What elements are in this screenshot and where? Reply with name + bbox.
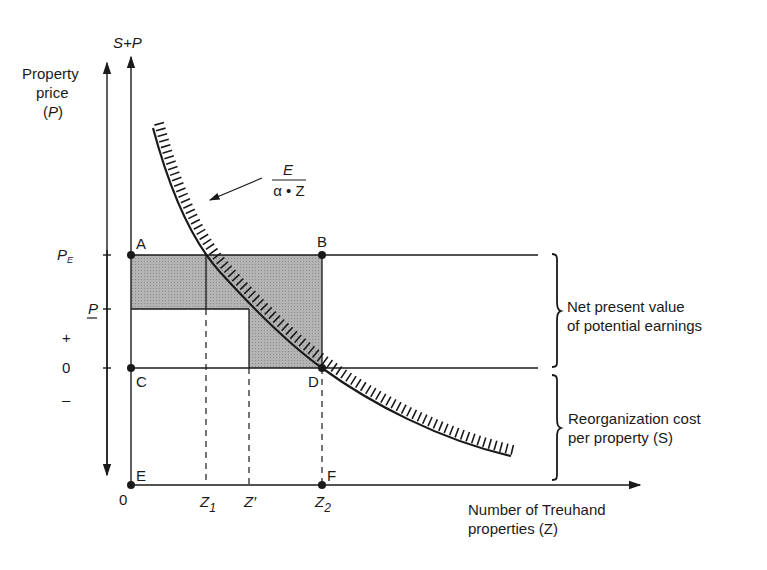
lower-brace <box>552 375 561 480</box>
label-c: C <box>136 373 147 390</box>
x-axis-label-2: properties (Z) <box>468 520 558 537</box>
shaded-area <box>131 255 322 368</box>
s-plus-p-label: S+P <box>113 34 142 51</box>
origin-label: 0 <box>119 491 127 508</box>
lower-brace-label-2: per property (S) <box>568 429 673 446</box>
tick-z2: Z2 <box>314 493 331 515</box>
upper-brace-label-1: Net present value <box>567 298 685 315</box>
point-a <box>127 251 135 259</box>
y-axis-label-line1: Property <box>22 65 79 82</box>
point-c <box>127 364 135 372</box>
point-e <box>127 481 135 489</box>
label-e: E <box>136 467 146 484</box>
y-axis-label-line2: price <box>36 84 69 101</box>
y-axis-label-line3: (P) <box>43 103 63 120</box>
curve-label-denominator: α • Z <box>273 182 304 199</box>
braces <box>552 254 561 480</box>
tick-pe: PE <box>57 246 74 265</box>
label-f: F <box>327 467 336 484</box>
point-d <box>318 364 326 372</box>
label-a: A <box>136 235 146 252</box>
x-axis-label-1: Number of Treuhand <box>468 501 606 518</box>
tick-zero: 0 <box>62 359 70 376</box>
tick-p-underbar: P <box>88 300 98 317</box>
label-b: B <box>317 233 327 250</box>
upper-brace-label-2: of potential earnings <box>567 317 702 334</box>
tick-plus: + <box>62 329 71 346</box>
tick-minus: – <box>62 391 71 408</box>
point-b <box>318 251 326 259</box>
treuhand-diagram: S+P Property price (P) E α • Z PE P + 0 … <box>0 0 767 570</box>
tick-zprime: Z′ <box>243 493 257 510</box>
curve-label-numerator: E <box>283 161 294 178</box>
label-d: D <box>308 373 319 390</box>
upper-brace <box>552 254 561 367</box>
lower-brace-label-1: Reorganization cost <box>568 410 701 427</box>
point-f <box>318 481 326 489</box>
tick-z1: Z1 <box>199 493 216 515</box>
curve-label-arrow <box>210 178 262 200</box>
